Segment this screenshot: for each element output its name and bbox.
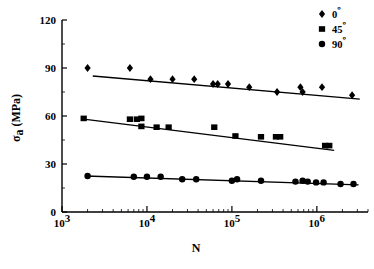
- data-point-circle: [179, 176, 185, 182]
- data-point-circle: [319, 41, 325, 47]
- data-point-square: [277, 134, 283, 140]
- data-point-circle: [313, 179, 319, 185]
- data-point-circle: [304, 178, 310, 184]
- y-axis-ticks: [62, 20, 67, 212]
- data-point-diamond: [169, 75, 175, 83]
- fatigue-chart: 0306090120 103104105106 N σa (MPa) 0º45º…: [0, 0, 374, 269]
- data-point-square: [211, 124, 217, 130]
- svg-text:σa (MPa): σa (MPa): [9, 94, 26, 142]
- data-point-circle: [320, 179, 326, 185]
- data-point-circle: [292, 178, 298, 184]
- x-tick-label: 105: [224, 212, 241, 229]
- data-point-circle: [144, 174, 150, 180]
- y-tick-label: 90: [45, 62, 57, 74]
- data-point-diamond: [225, 80, 231, 88]
- x-tick-label: 103: [54, 212, 71, 229]
- data-point-square: [319, 26, 325, 32]
- legend-label-1: 45º: [332, 20, 347, 35]
- data-point-circle: [258, 178, 264, 184]
- y-tick-label: 60: [45, 110, 57, 122]
- data-point-square: [258, 134, 264, 140]
- y-axis-tick-labels: 0306090120: [40, 14, 57, 218]
- data-point-circle: [350, 181, 356, 187]
- data-point-square: [153, 124, 159, 130]
- legend-label-2: 90º: [332, 35, 347, 50]
- data-point-square: [138, 116, 144, 122]
- data-point-diamond: [127, 64, 133, 72]
- data-point-circle: [193, 176, 199, 182]
- x-major-ticks: [62, 206, 317, 212]
- x-tick-label: 106: [309, 212, 326, 229]
- trend-line-1: [84, 119, 335, 150]
- data-point-circle: [234, 176, 240, 182]
- y-tick-label: 120: [40, 14, 57, 26]
- y-axis-title: σa (MPa): [9, 94, 26, 142]
- data-point-square: [166, 124, 172, 130]
- data-points: [81, 64, 357, 187]
- x-axis-tick-labels: 103104105106: [54, 212, 326, 229]
- y-tick-label: 30: [45, 158, 57, 170]
- legend-label-0: 0º: [332, 5, 341, 20]
- y-axis-title-unit: (MPa): [9, 94, 23, 130]
- data-point-square: [127, 116, 133, 122]
- data-point-square: [81, 116, 87, 122]
- x-tick-label: 104: [139, 212, 156, 229]
- data-point-diamond: [84, 64, 90, 72]
- data-point-diamond: [191, 75, 197, 83]
- data-point-square: [138, 124, 144, 130]
- data-point-circle: [84, 173, 90, 179]
- data-point-circle: [337, 181, 343, 187]
- data-point-circle: [131, 174, 137, 180]
- data-point-square: [232, 133, 238, 139]
- data-point-diamond: [319, 10, 325, 18]
- x-axis-title: N: [192, 241, 201, 255]
- trend-lines: [84, 76, 360, 185]
- data-point-square: [326, 143, 332, 149]
- data-point-diamond: [147, 75, 153, 83]
- data-point-diamond: [274, 88, 280, 96]
- data-point-circle: [157, 174, 163, 180]
- chart-legend: 0º45º90º: [319, 5, 347, 50]
- chart-canvas: 0306090120 103104105106 N σa (MPa) 0º45º…: [0, 0, 374, 269]
- data-point-diamond: [319, 83, 325, 91]
